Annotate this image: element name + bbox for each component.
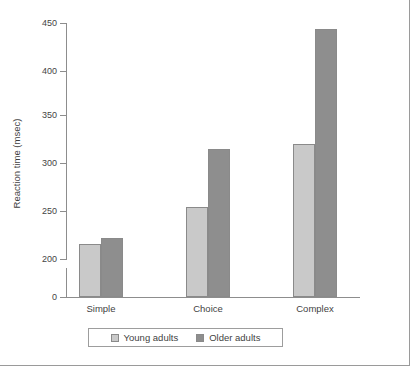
y-axis-tick [60,211,66,212]
y-axis-tick-label: 200 [42,255,57,264]
chart-figure: Reaction time (msec) 4504003503002502000… [0,0,410,366]
y-axis-tick-label: 0 [52,293,57,302]
y-axis-tick-label: 350 [42,111,57,120]
y-axis-tick-label: 450 [42,19,57,28]
bar-simple-older [101,238,123,297]
y-axis-tick [60,163,66,164]
legend-entry-older: Older adults [196,332,260,343]
y-axis-tick-label: 250 [42,207,57,216]
bar-simple-young [79,244,101,297]
y-axis-tick [60,115,66,116]
legend-label-young: Young adults [124,332,179,343]
bar-choice-older [208,149,230,297]
y-axis-tick-label: 400 [42,67,57,76]
plot-area: Reaction time (msec) 4504003503002502000… [0,0,410,366]
legend-swatch-older-icon [196,334,204,342]
x-axis-line [66,297,360,298]
bar-complex-older [315,29,337,297]
legend-entry-young: Young adults [111,332,179,343]
bar-complex-young [293,144,315,297]
legend-label-older: Older adults [209,332,260,343]
x-axis-label-complex: Complex [296,303,334,314]
y-axis-tick [60,297,66,298]
y-axis-tick [60,259,66,260]
x-axis-label-choice: Choice [193,303,223,314]
chart-legend: Young adults Older adults [88,328,283,347]
y-axis-line-lower [66,268,67,297]
y-axis-tick [60,71,66,72]
y-axis-tick [60,23,66,24]
bar-choice-young [186,207,208,297]
y-axis-line [66,23,67,260]
x-axis-label-simple: Simple [86,303,115,314]
y-axis-title: Reaction time (msec) [11,104,22,224]
y-axis-tick-label: 300 [42,159,57,168]
legend-swatch-young-icon [111,334,119,342]
